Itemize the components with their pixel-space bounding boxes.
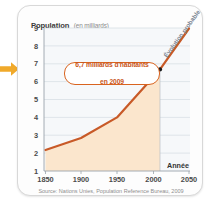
y-tick-7: 7 [34,59,38,68]
y-tick-5: 5 [34,95,38,104]
x-tick-2050: 2050 [181,175,197,184]
y-tick-4: 4 [34,113,39,122]
y-tick-9: 9 [34,24,38,33]
callout-line-1: 6,7 milliards d'habitants [75,61,148,69]
chart-card: Population (en milliards) [17,5,203,196]
y-tick-3: 3 [34,131,38,140]
callout-line-2: en 2009 [75,78,148,86]
y-tick-2: 2 [34,149,38,158]
x-tick-1900: 1900 [73,175,89,184]
callout-text: 6,7 milliards d'habitants en 2009 [75,61,148,86]
x-axis-title: Année [167,161,189,170]
x-tick-1950: 1950 [109,175,125,184]
y-tick-8: 8 [34,42,38,51]
x-tick-2000: 2000 [145,175,161,184]
y-tick-6: 6 [34,77,38,86]
x-tick-1850: 1850 [37,175,53,184]
plot-area: Évolution probable 9 8 7 6 5 4 3 2 1 185… [18,6,203,196]
annotation-callout: 6,7 milliards d'habitants en 2009 [64,62,160,85]
source-credit: Source: Nations Unies, Population Refere… [38,188,183,194]
chart-figure: Population (en milliards) [0,0,208,206]
